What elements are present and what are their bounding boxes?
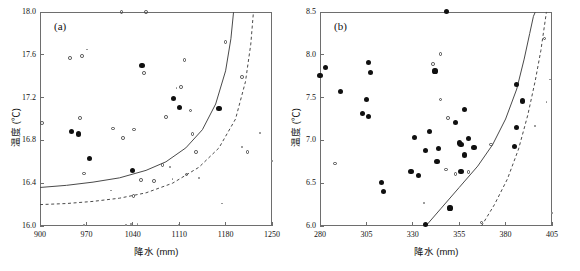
y-tick-label: 8.0 (294, 50, 316, 59)
x-tick-label: 970 (70, 230, 102, 239)
x-tick-mark (86, 222, 87, 226)
chart-panel-a: (a) 16.016.416.817.217.618.0900970104011… (0, 0, 290, 271)
data-point-filled-circle (471, 145, 476, 150)
data-point-filled-circle (458, 169, 463, 174)
data-point-open-circle (144, 10, 148, 14)
x-tick-label: 355 (443, 230, 475, 239)
data-point-dot (86, 49, 88, 51)
y-tick-label: 16.4 (14, 178, 36, 187)
data-point-filled-circle (432, 68, 437, 73)
y-tick-label: 17.2 (14, 93, 36, 102)
data-point-dot (534, 125, 536, 127)
data-point-dot (198, 177, 200, 179)
x-tick-mark (412, 222, 413, 226)
plot-frame-a (40, 12, 272, 226)
data-point-filled-circle (434, 159, 439, 164)
data-point-filled-circle (416, 173, 421, 178)
y-tick-mark (320, 183, 324, 184)
data-point-filled-circle (444, 9, 449, 14)
figure-container: (a) 16.016.416.817.217.618.0900970104011… (0, 0, 580, 271)
data-point-filled-circle (453, 120, 458, 125)
data-point-dot (546, 101, 548, 103)
data-point-filled-circle (171, 96, 176, 101)
data-point-open-circle (194, 150, 198, 154)
data-point-filled-circle (177, 105, 182, 110)
y-tick-label: 16.0 (14, 221, 36, 230)
data-point-open-circle (179, 85, 183, 89)
data-point-dot (423, 202, 425, 204)
y-axis-label-a: 温度 (℃) (8, 108, 22, 147)
data-point-filled-circle (520, 98, 525, 103)
data-point-dot (83, 224, 85, 226)
data-point-open-circle (431, 62, 435, 66)
y-tick-mark (320, 54, 324, 55)
data-point-filled-circle (458, 142, 463, 147)
data-point-filled-circle (381, 189, 386, 194)
x-tick-mark (132, 222, 133, 226)
x-tick-label: 900 (24, 230, 56, 239)
data-point-filled-circle (76, 131, 81, 136)
y-tick-label: 6.5 (294, 178, 316, 187)
data-point-open-circle (40, 121, 44, 125)
y-tick-mark (320, 140, 324, 141)
data-point-dot (137, 223, 139, 225)
y-tick-mark (40, 54, 44, 55)
y-tick-label: 8.5 (294, 7, 316, 16)
data-point-dot (241, 146, 243, 148)
data-point-filled-circle (139, 63, 144, 68)
data-point-open-circle (446, 116, 450, 120)
data-point-filled-circle (364, 97, 369, 102)
y-tick-label: 7.5 (294, 93, 316, 102)
x-tick-mark (320, 222, 321, 226)
y-tick-label: 17.6 (14, 50, 36, 59)
data-point-open-circle (164, 115, 168, 119)
data-point-open-circle (333, 162, 337, 166)
panel-label-a: (a) (54, 20, 66, 32)
y-tick-label: 18.0 (14, 7, 36, 16)
data-point-filled-circle (216, 106, 221, 111)
data-point-open-circle (139, 178, 143, 182)
data-point-filled-circle (366, 114, 371, 119)
x-tick-mark (459, 222, 460, 226)
x-tick-mark (272, 222, 273, 226)
data-point-filled-circle (408, 169, 413, 174)
data-point-open-circle (121, 136, 125, 140)
x-axis-label-b: 降水 (mm) (320, 244, 552, 258)
data-point-open-circle (191, 132, 195, 136)
x-tick-label: 330 (397, 230, 429, 239)
data-point-open-circle (467, 170, 471, 174)
data-point-filled-circle (423, 222, 428, 227)
y-tick-mark (320, 12, 324, 13)
data-point-open-circle (82, 172, 86, 176)
y-tick-mark (40, 12, 44, 13)
x-tick-mark (552, 222, 553, 226)
data-point-dot (551, 212, 553, 214)
x-tick-label: 405 (536, 230, 568, 239)
data-point-filled-circle (379, 180, 384, 185)
data-point-filled-circle (317, 73, 322, 78)
data-point-open-circle (80, 54, 84, 58)
x-tick-label: 280 (304, 230, 336, 239)
x-tick-label: 380 (490, 230, 522, 239)
data-point-filled-circle (462, 152, 467, 157)
x-tick-label: 1250 (256, 230, 288, 239)
chart-panel-b: (b) 6.06.57.07.58.08.5280305330355380405… (290, 0, 580, 271)
data-point-dot (169, 166, 171, 168)
x-axis-label-a: 降水 (mm) (40, 244, 272, 258)
x-tick-mark (179, 222, 180, 226)
plot-frame-b (320, 12, 552, 226)
data-point-open-circle (120, 10, 124, 14)
y-axis-label-b: 温度 (℃) (288, 108, 302, 147)
data-point-open-circle (152, 179, 156, 183)
y-tick-mark (40, 226, 44, 227)
panel-label-b: (b) (334, 20, 347, 32)
data-point-filled-circle (366, 60, 371, 65)
x-tick-mark (366, 222, 367, 226)
data-point-dot (271, 160, 273, 162)
data-point-open-circle (132, 194, 136, 198)
y-tick-mark (40, 140, 44, 141)
y-tick-label: 6.0 (294, 221, 316, 230)
data-point-dot (259, 132, 261, 134)
data-point-open-circle (240, 75, 244, 79)
data-point-open-circle (78, 116, 82, 120)
